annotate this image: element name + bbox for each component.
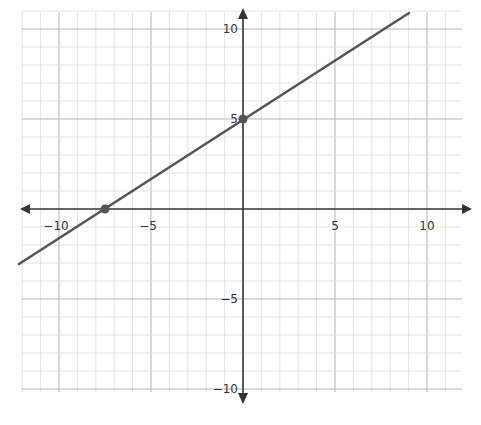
x-intercept-point (101, 205, 110, 214)
y-axis-up-arrow-icon (238, 8, 248, 19)
axes (20, 8, 472, 404)
x-axis-left-arrow-icon (20, 204, 30, 214)
x-tick-label-neg5: −5 (139, 219, 157, 233)
x-tick-label-5: 5 (331, 219, 339, 233)
x-tick-label-neg10: −10 (43, 219, 68, 233)
grid (22, 11, 462, 392)
y-tick-label-neg5: −5 (220, 292, 238, 306)
y-tick-label-neg10: −10 (213, 382, 238, 396)
x-tick-label-10: 10 (419, 219, 434, 233)
y-intercept-point (239, 115, 248, 124)
coordinate-plane: −10 −5 5 10 10 5 −5 −10 (0, 0, 481, 425)
x-axis-right-arrow-icon (462, 204, 472, 214)
y-axis-down-arrow-icon (238, 393, 248, 404)
y-tick-label-10: 10 (223, 22, 238, 36)
